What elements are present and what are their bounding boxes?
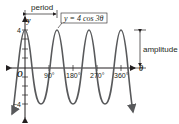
- tick-label-270: 270°: [90, 72, 105, 79]
- origin-label: O: [17, 70, 23, 79]
- cosine-graph: period y = 4 cos 3θ amplitude y θ O 4 −4…: [0, 0, 179, 124]
- amplitude-label: amplitude: [143, 45, 178, 54]
- tick-label-neg4: −4: [13, 101, 21, 108]
- x-axis-label: θ: [139, 64, 144, 73]
- cosine-curve-left-end: [12, 112, 13, 114]
- tick-label-360: 360°: [114, 72, 129, 79]
- equation-pointer: [58, 23, 62, 28]
- tick-label-4: 4: [17, 27, 21, 34]
- tick-label-90: 90°: [44, 72, 55, 79]
- equation-label: y = 4 cos 3θ: [63, 14, 104, 23]
- period-label: period: [31, 3, 53, 12]
- tick-label-180: 180°: [66, 72, 81, 79]
- y-axis-label: y: [26, 16, 31, 25]
